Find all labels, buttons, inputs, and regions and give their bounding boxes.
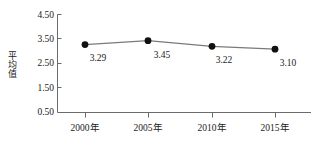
x-axis-tick-label: 2000年 [71, 120, 100, 134]
data-point-marker [209, 43, 216, 50]
y-axis-ticks [58, 15, 62, 88]
x-axis-tick-label: 2005年 [134, 120, 163, 134]
x-axis-ticks [86, 113, 276, 118]
data-line [85, 41, 275, 50]
line-chart: 平均值 4.50 3.50 2.50 1.50 0.50 [0, 0, 317, 149]
x-axis-tick-label: 2010年 [198, 120, 227, 134]
data-point-label: 3.29 [90, 53, 107, 63]
data-point-marker [145, 37, 152, 44]
data-point-marker [272, 46, 279, 53]
data-point-marker [82, 41, 89, 48]
data-point-label: 3.22 [216, 55, 233, 65]
data-point-label: 3.10 [280, 58, 297, 68]
data-point-label: 3.45 [154, 50, 171, 60]
x-axis-tick-label: 2015年 [261, 120, 290, 134]
